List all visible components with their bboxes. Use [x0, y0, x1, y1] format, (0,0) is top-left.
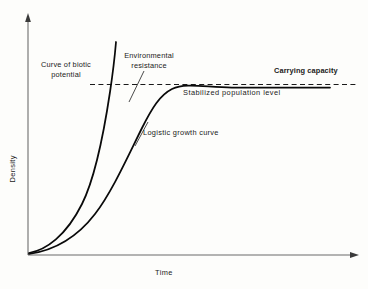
- annotation-envres-line1: Environmental: [124, 51, 174, 60]
- x-axis-label: Time: [155, 268, 173, 278]
- logistic-growth-curve: [29, 86, 330, 254]
- annotation-biotic-potential: Curve of biotic potential: [29, 60, 103, 79]
- annotation-logistic-growth-curve: Logistic growth curve: [143, 128, 219, 138]
- population-growth-figure: Curve of biotic potential Environmental …: [0, 0, 368, 289]
- environmental-resistance-leader: [129, 71, 144, 102]
- chart-canvas: [0, 0, 368, 289]
- annotation-environmental-resistance: Environmental resistance: [116, 51, 182, 70]
- y-axis: [25, 13, 31, 255]
- x-axis: [28, 252, 359, 258]
- y-axis-label: Density: [8, 147, 18, 191]
- annotation-stabilized-population-level: Stabilized population level: [183, 88, 281, 98]
- annotation-carrying-capacity: Carrying capacity: [274, 66, 338, 76]
- annotation-biotic-line2: potential: [51, 70, 81, 79]
- annotation-biotic-line1: Curve of biotic: [41, 60, 91, 69]
- annotation-envres-line2: resistance: [131, 61, 166, 70]
